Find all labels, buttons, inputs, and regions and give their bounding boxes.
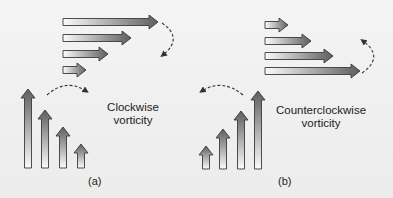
vorticity-diagram: Clockwise vorticity Counterclockwise vor… bbox=[0, 0, 393, 198]
horizontal-wind-arrow-a-3 bbox=[63, 47, 108, 61]
horizontal-wind-arrow-b-3 bbox=[265, 49, 333, 63]
counterclockwise-arc-lower bbox=[202, 85, 243, 95]
panel-b-title-line2: vorticity bbox=[275, 117, 367, 130]
horizontal-wind-arrow-a-1 bbox=[63, 15, 158, 29]
vertical-wind-arrow-b-2 bbox=[216, 129, 230, 169]
clockwise-arc-upper bbox=[162, 23, 173, 55]
vertical-wind-arrow-a-1 bbox=[21, 89, 35, 168]
horizontal-wind-arrow-b-4 bbox=[265, 64, 360, 78]
vertical-wind-arrow-b-3 bbox=[234, 111, 248, 169]
arrows-layer bbox=[0, 0, 393, 198]
horizontal-wind-arrow-a-2 bbox=[63, 31, 131, 45]
panel-a-title-line2: vorticity bbox=[100, 114, 166, 127]
panel-a-title-line1: Clockwise bbox=[100, 101, 166, 114]
horizontal-wind-arrow-b-2 bbox=[265, 34, 311, 48]
panel-b-caption: (b) bbox=[278, 175, 291, 187]
counterclockwise-arc-upper bbox=[362, 41, 374, 73]
panel-b-title-line1: Counterclockwise bbox=[275, 104, 367, 117]
vertical-wind-arrow-b-1 bbox=[199, 146, 213, 169]
panel-a-title: Clockwise vorticity bbox=[100, 101, 166, 127]
vertical-wind-arrow-a-4 bbox=[74, 144, 88, 168]
horizontal-wind-arrow-a-4 bbox=[63, 63, 86, 77]
vertical-wind-arrow-b-4 bbox=[251, 91, 265, 169]
clockwise-arc-lower bbox=[47, 85, 86, 95]
panel-a-caption: (a) bbox=[88, 175, 101, 187]
horizontal-wind-arrow-b-1 bbox=[265, 18, 288, 32]
panel-b-title: Counterclockwise vorticity bbox=[275, 104, 367, 130]
vertical-wind-arrow-a-3 bbox=[56, 127, 70, 168]
vertical-wind-arrow-a-2 bbox=[38, 110, 52, 168]
